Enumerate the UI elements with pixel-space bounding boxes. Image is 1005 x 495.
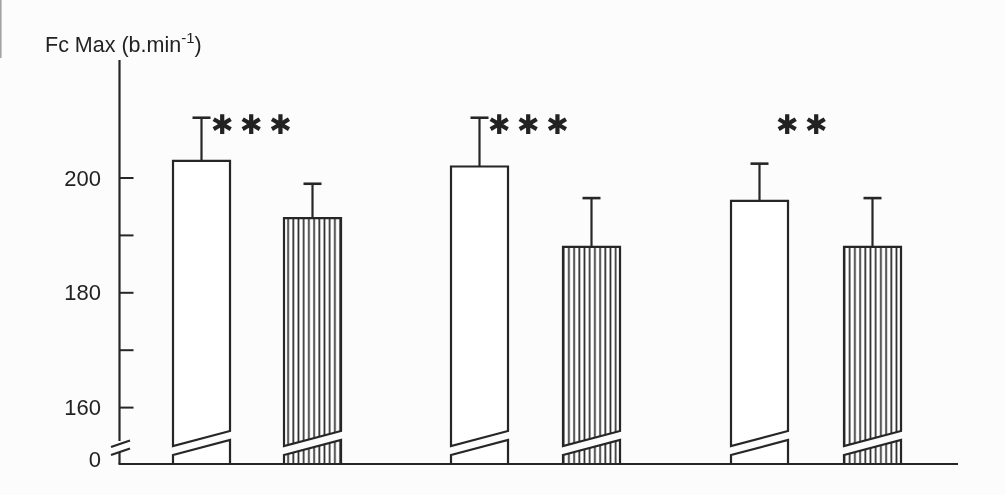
scan-edge-artifact [0, 0, 2, 58]
figure: Fc Max (b.min-1) ✱✱✱✱✱✱✱✱0160180200 [0, 0, 1005, 495]
y-tick-label-200: 200 [64, 166, 101, 191]
y-axis-title-close: ) [195, 33, 202, 57]
bar-striped-group-3 [844, 247, 901, 446]
bar-open-group-1 [173, 161, 230, 446]
bar-striped-group-2 [563, 247, 620, 446]
chart-plot-area: ✱✱✱✱✱✱✱✱0160180200 [64, 60, 958, 472]
significance-group-3: ✱✱ [776, 109, 834, 140]
y-tick-label-160: 160 [64, 395, 101, 420]
significance-group-2: ✱✱✱ [488, 109, 575, 140]
y-axis-title: Fc Max (b.min-1) [45, 29, 202, 57]
y-tick-label-0: 0 [89, 447, 101, 472]
axis-break-mark-upper [111, 441, 130, 448]
bar-chart: Fc Max (b.min-1) ✱✱✱✱✱✱✱✱0160180200 [0, 0, 1005, 495]
significance-group-1: ✱✱✱ [211, 109, 298, 140]
y-axis-title-text: Fc Max (b.min [45, 33, 181, 57]
bar-open-group-2 [451, 167, 508, 446]
y-tick-label-180: 180 [64, 280, 101, 305]
bar-striped-group-1 [284, 218, 341, 446]
bar-open-group-3 [731, 201, 788, 446]
y-axis-title-superscript: -1 [181, 29, 194, 46]
